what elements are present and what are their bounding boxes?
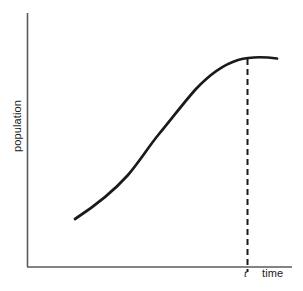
x-axis-tick-label-t: t: [244, 267, 247, 279]
y-axis-label: population: [0, 88, 34, 164]
population-time-graph: population t time: [0, 0, 303, 291]
plot-canvas: [0, 0, 303, 291]
x-axis-label: time: [262, 267, 283, 279]
y-axis-label-text: population: [11, 100, 23, 152]
